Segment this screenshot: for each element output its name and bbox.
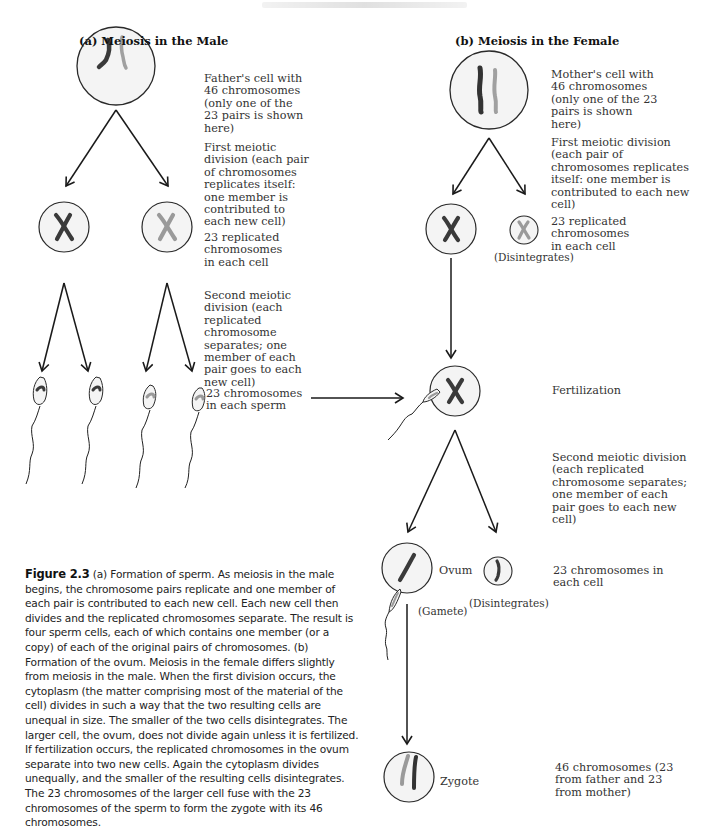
mother-cell	[450, 51, 528, 129]
sperm-4	[185, 388, 205, 488]
female-replicated-cell	[426, 204, 476, 254]
label-male-second-division: Second meiotic division (each replicated…	[204, 290, 322, 389]
label-male-replicated: 23 replicated chromosomes in each cell	[204, 232, 284, 269]
chromosome-light-icon	[494, 70, 496, 112]
label-father-cell: Father's cell with 46 chromosomes (only …	[204, 73, 304, 135]
label-chromosomes-each-cell: 23 chromosomes in each cell	[553, 565, 673, 590]
figure-label: Figure 2.3	[25, 567, 90, 581]
label-sperm: 23 chromosomes in each sperm	[206, 388, 304, 413]
replicated-cell-light	[142, 202, 192, 252]
sperm-1	[26, 377, 47, 484]
zygote-cell	[384, 752, 434, 802]
label-zygote: Zygote	[440, 776, 479, 788]
label-gamete: (Gamete)	[418, 605, 467, 617]
label-ovum: Ovum	[439, 565, 472, 577]
label-female-first-division: First meiotic division (each pair of chr…	[551, 137, 691, 211]
label-disintegrates-2: (Disintegrates)	[469, 597, 549, 609]
label-female-replicated: 23 replicated chromosomes in each cell	[551, 216, 631, 253]
polar-body-1	[510, 216, 538, 244]
sperm-2	[82, 377, 103, 484]
replicated-cell-dark	[39, 202, 89, 252]
label-fertilization: Fertilization	[552, 385, 621, 397]
sperm-3	[136, 385, 156, 488]
label-disintegrates-1: (Disintegrates)	[494, 251, 574, 263]
female-panel-title: (b) Meiosis in the Female	[455, 34, 619, 48]
male-panel-title: (a) Meiosis in the Male	[79, 34, 228, 48]
figure-caption: Figure 2.3 (a) Formation of sperm. As me…	[25, 567, 360, 830]
arrow-icon	[116, 110, 168, 186]
label-male-first-division: First meiotic division (each pair of chr…	[204, 142, 314, 229]
arrow-icon	[66, 110, 116, 186]
label-mother-cell: Mother's cell with 46 chromosomes (only …	[551, 69, 659, 131]
polar-body-2	[484, 557, 512, 585]
caption-text: (a) Formation of sperm. As meiosis in th…	[25, 568, 358, 828]
label-zygote-description: 46 chromosomes (23 from father and 23 fr…	[555, 762, 675, 799]
chromosome-dark-icon	[479, 68, 481, 112]
fertilized-egg	[388, 366, 480, 440]
label-female-second-division: Second meiotic division (each replicated…	[552, 452, 694, 526]
